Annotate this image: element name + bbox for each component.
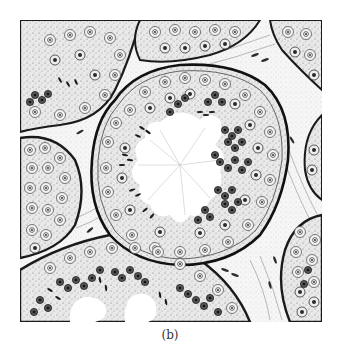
figure-panel: (b) xyxy=(0,0,340,358)
histology-illustration xyxy=(20,20,322,322)
tubule-drawing xyxy=(20,20,322,322)
panel-label: (b) xyxy=(0,328,340,342)
